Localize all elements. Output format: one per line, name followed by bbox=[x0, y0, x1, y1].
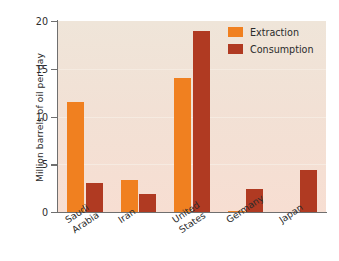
y-tick-label: 5 bbox=[20, 159, 48, 170]
bar-consumption bbox=[300, 170, 317, 212]
chart-figure: Million barrels of oil per day 05101520 … bbox=[0, 0, 339, 261]
bar-consumption bbox=[139, 194, 156, 212]
bar-extraction bbox=[67, 102, 84, 212]
legend-label: Consumption bbox=[250, 44, 314, 55]
bar-consumption bbox=[193, 31, 210, 212]
bar-extraction bbox=[174, 78, 191, 212]
y-tick-label: 15 bbox=[20, 63, 48, 74]
legend-label: Extraction bbox=[250, 27, 299, 38]
legend-swatch-extraction bbox=[228, 27, 243, 37]
y-tick-label: 0 bbox=[20, 207, 48, 218]
y-tick-label: 20 bbox=[20, 16, 48, 27]
legend-item: Extraction bbox=[228, 25, 314, 39]
y-tick-label: 10 bbox=[20, 111, 48, 122]
legend-swatch-consumption bbox=[228, 44, 243, 54]
legend-item: Consumption bbox=[228, 42, 314, 56]
y-axis-line bbox=[57, 20, 58, 213]
chart-legend: ExtractionConsumption bbox=[228, 25, 314, 56]
